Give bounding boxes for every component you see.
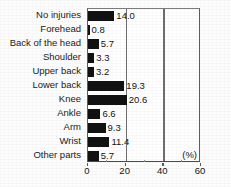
figure-container: No injuries Forehead Back of the head Sh… [0,0,231,187]
bar [88,151,99,161]
x-tick-label: 60 [195,165,206,176]
bar-value-label: 20.6 [127,93,148,107]
bar-row: 0.8 [88,23,199,37]
bar [88,95,127,105]
category-label-column: No injuries Forehead Back of the head Sh… [0,8,84,162]
bar-chart: No injuries Forehead Back of the head Sh… [0,0,231,187]
bar-row: 3.3 [88,51,199,65]
bar [88,109,100,119]
x-tick-label: 40 [157,165,168,176]
x-axis-ticks: 0204060 [87,163,200,175]
category-label: Shoulder [0,50,84,64]
plot-area: 14.0 0.8 5.7 3.3 3.2 19.3 20.6 6.6 9.3 1… [87,8,200,162]
bar-value-label: 19.3 [124,79,145,93]
x-minor-tick-mark [144,160,145,162]
category-label: Ankle [0,106,84,120]
bar [88,39,99,49]
bar [88,81,124,91]
bar-value-label: 9.3 [106,121,121,135]
bar-row: 9.3 [88,121,199,135]
category-label: Wrist [0,134,84,148]
category-label: Knee [0,92,84,106]
bar-row: 19.3 [88,79,199,93]
bar-value-label: 6.6 [100,107,115,121]
category-label: Upper back [0,64,84,78]
bar-row: 20.6 [88,93,199,107]
bar-value-label: 11.4 [109,135,129,149]
category-label: No injuries [0,8,84,22]
category-label: Other parts [0,148,84,162]
bar-value-label: 0.8 [90,23,105,37]
bar-row: 5.7 [88,37,199,51]
bar-value-label: 14.0 [114,9,135,23]
bar-row: 11.4 [88,135,199,149]
x-tick-label: 20 [119,165,130,176]
category-label: Forehead [0,22,84,36]
x-tick-label: 0 [84,165,89,176]
bar-row: 6.6 [88,107,199,121]
category-label: Back of the head [0,36,84,50]
bar-value-label: 3.3 [94,51,109,65]
bar-row: 3.2 [88,65,199,79]
x-minor-tick-mark [181,160,182,162]
bar-value-label: 5.7 [99,37,114,51]
bar [88,137,109,147]
bar-rows: 14.0 0.8 5.7 3.3 3.2 19.3 20.6 6.6 9.3 1… [88,9,199,161]
category-label: Lower back [0,78,84,92]
x-minor-tick-mark [106,160,107,162]
bar [88,123,106,133]
category-label: Arm [0,120,84,134]
bar [88,11,114,21]
axis-unit-label: (%) [182,149,197,160]
bar-value-label: 3.2 [94,65,109,79]
bar-row: 14.0 [88,9,199,23]
